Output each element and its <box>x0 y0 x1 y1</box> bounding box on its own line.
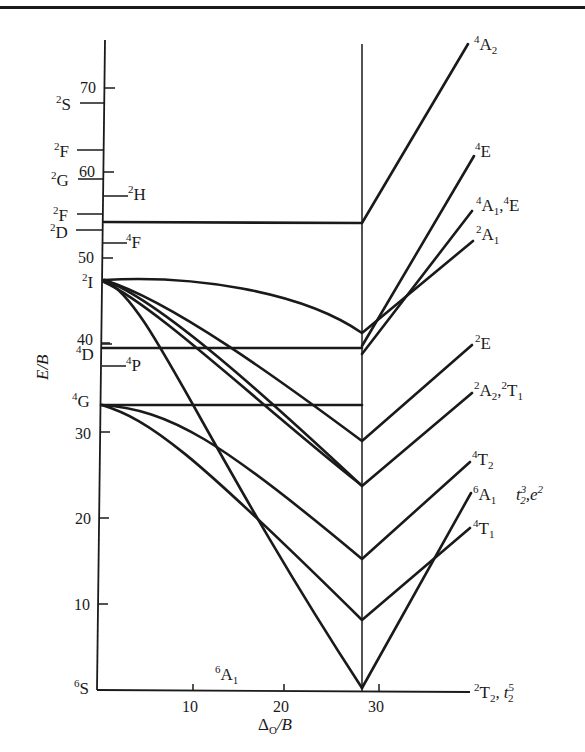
term-2D: 2D <box>50 221 68 242</box>
label-6A1: 6A1 <box>473 483 496 506</box>
term-4F: 4F <box>126 231 141 252</box>
svg-text:ΔO/B: ΔO/B <box>258 715 293 736</box>
energy-curves <box>101 44 474 688</box>
tick-labels: 10 20 30 10 20 30 40 50 60 70 <box>74 79 384 715</box>
label-2A1: 2A1 <box>476 223 499 246</box>
term-4D: 4D <box>76 343 94 364</box>
label-4T2: 4T2 <box>472 448 493 471</box>
term-4G: 4G <box>72 390 90 411</box>
term-6S: 6S <box>74 677 89 698</box>
y-tick-30: 30 <box>75 425 91 442</box>
label-2E: 2E <box>475 332 491 353</box>
x-tick-30: 30 <box>368 698 384 715</box>
curve-4T2 <box>102 405 470 559</box>
y-tick-20: 20 <box>75 510 91 527</box>
curve-2T2 <box>104 280 362 688</box>
y-axis <box>97 40 105 690</box>
curve-4A2 <box>104 44 468 223</box>
label-4T1: 4T1 <box>473 517 494 540</box>
label-2T2-t2-5: 2T2,t52 <box>474 681 514 704</box>
term-2S: 2S <box>56 93 71 114</box>
curve-4E <box>362 156 474 346</box>
label-6A1-bottom: 6A1 <box>215 663 238 686</box>
term-2H: 2H <box>128 183 146 204</box>
y-tick-70: 70 <box>80 79 96 96</box>
curve-4A1-4E <box>362 211 472 354</box>
term-2I: 2I <box>82 271 94 292</box>
label-4A1-4E: 4A1,4E <box>476 194 519 217</box>
curve-6A1 <box>362 493 471 688</box>
state-labels: 4A2 4E 4A1,4E 2A1 2E 2A2,2T1 4T2 6A1 t32… <box>215 33 544 704</box>
y-axis-title: E/B <box>33 354 52 381</box>
y-tick-10: 10 <box>74 596 90 613</box>
label-2A2-2T1: 2A2,2T1 <box>474 379 523 402</box>
x-tick-20: 20 <box>273 698 289 715</box>
term-4P: 4P <box>126 354 141 375</box>
y-tick-50: 50 <box>78 249 94 266</box>
label-config-t2-e: t32,e2 <box>516 483 544 506</box>
term-2G: 2G <box>51 169 69 190</box>
label-4E: 4E <box>475 140 491 161</box>
label-4A2: 4A2 <box>474 33 497 56</box>
x-tick-10: 10 <box>182 698 198 715</box>
y-tick-60: 60 <box>79 163 95 180</box>
term-2F-upper: 2F <box>54 140 69 161</box>
x-axis-title: ΔO/B <box>258 715 293 736</box>
tanabe-sugano-diagram: 10 20 30 10 20 30 40 50 60 70 E/B ΔO/B 2… <box>0 0 585 752</box>
curve-2A2-2T1 <box>104 280 472 486</box>
